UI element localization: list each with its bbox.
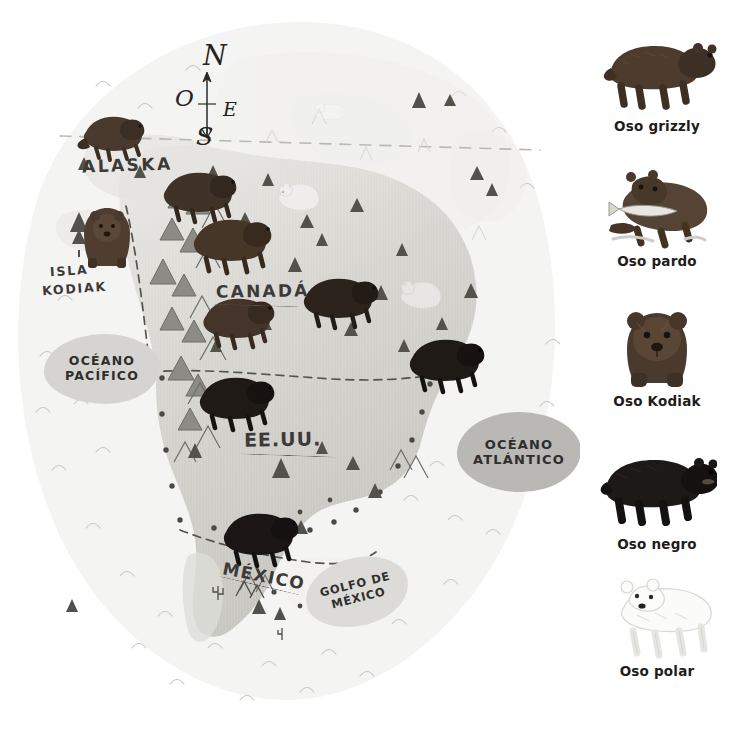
bear-grizzly-icon (597, 30, 717, 114)
label-oceano-atlantico: OCÉANO ATLÁNTICO (457, 412, 580, 492)
legend-item-negro: Oso negro (580, 448, 734, 552)
legend-item-pardo: Oso pardo (580, 165, 734, 269)
legend-item-polar: Oso polar (580, 575, 734, 679)
label-alaska: ALASKA (82, 153, 173, 176)
bear-distribution-map-illustration: N O E S ALASKA ISLA KODIAK CANADÁ EE.UU.… (0, 0, 734, 733)
compass-west-label: O (175, 85, 194, 111)
map-bear-kodiak-island (84, 208, 130, 268)
compass-east-label: E (223, 98, 237, 120)
legend-label-polar: Oso polar (620, 663, 695, 679)
atlantico-line-1: OCÉANO (485, 437, 554, 452)
bear-negro-icon (597, 448, 717, 532)
polar-bear-arctic-west (279, 184, 319, 211)
polar-bear-arctic-center (401, 282, 441, 309)
label-oceano-pacifico: OCÉANO PACÍFICO (44, 334, 160, 404)
legend-label-pardo: Oso pardo (617, 253, 697, 269)
bear-kodiak-icon (597, 305, 717, 389)
pacifico-line-1: OCÉANO (69, 354, 135, 369)
map-panel: N O E S ALASKA ISLA KODIAK CANADÁ EE.UU.… (0, 0, 580, 733)
label-canada: CANADÁ (216, 280, 310, 302)
bear-pardo-icon (597, 165, 717, 249)
label-isla: ISLA (50, 262, 89, 280)
bear-polar-icon (597, 575, 717, 659)
atlantico-line-2: ATLÁNTICO (473, 452, 565, 467)
legend-item-grizzly: Oso grizzly (580, 30, 734, 134)
legend-item-kodiak: Oso Kodiak (580, 305, 734, 409)
legend-label-negro: Oso negro (617, 536, 697, 552)
compass-north-label: N (203, 40, 227, 71)
legend-label-kodiak: Oso Kodiak (613, 393, 700, 409)
compass-south-label: S (196, 122, 213, 151)
species-legend: Oso grizzly Oso pardo (580, 0, 734, 733)
pacifico-line-2: PACÍFICO (65, 369, 139, 384)
compass-rose: N O E S (175, 40, 245, 150)
legend-label-grizzly: Oso grizzly (614, 118, 700, 134)
label-eeuu: EE.UU. (244, 427, 322, 450)
